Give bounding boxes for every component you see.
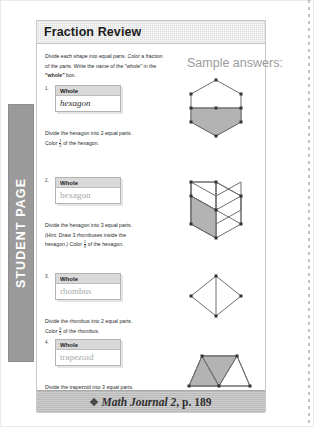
worksheet: Fraction Review Divide each shape into e… — [36, 20, 266, 412]
worksheet-title-bar: Fraction Review — [37, 21, 265, 44]
worksheet-body: Divide each shape into equal parts. Colo… — [37, 44, 265, 413]
problem-2-text: Divide the hexagon into 3 equal parts. (… — [45, 221, 177, 250]
problem-4-number: 4. — [45, 340, 49, 345]
whole-box-3-value[interactable]: rhombus — [56, 284, 120, 299]
whole-box-4-header: Whole — [56, 340, 120, 350]
student-page-tab-label: STUDENT PAGE — [14, 178, 28, 288]
problem-1-line1: Divide the hexagon into 2 equal parts. — [45, 130, 132, 136]
whole-box-2-header: Whole — [56, 178, 120, 188]
whole-box-1[interactable]: Whole hexagon — [55, 85, 121, 112]
whole-box-2[interactable]: Whole hexagon — [55, 177, 121, 204]
problem-1-line2-pre: Color — [45, 140, 59, 146]
problem-3-line1: Divide the rhombus into 2 equal parts. — [45, 318, 132, 324]
footer-citation: Math Journal 2, p. 189 — [102, 396, 212, 408]
whole-box-4-value[interactable]: trapezoid — [56, 350, 120, 365]
instructions-part2: in the — [142, 63, 156, 69]
problem-2-line3-pre: hexagon.) Color — [45, 241, 83, 247]
problem-1-text: Divide the hexagon into 2 equal parts. C… — [45, 129, 177, 148]
whole-box-4[interactable]: Whole trapezoid — [55, 339, 121, 366]
student-page-tab: STUDENT PAGE — [8, 104, 34, 362]
instructions-bold: "whole" — [45, 72, 65, 78]
problem-3-line2-post: of the rhombus. — [62, 328, 100, 334]
instructions-part3: box. — [65, 72, 76, 78]
whole-box-3[interactable]: Whole rhombus — [55, 273, 121, 300]
whole-box-3-header: Whole — [56, 274, 120, 284]
problem-2-number: 2. — [45, 178, 49, 183]
diamond-bullet-icon — [89, 398, 97, 406]
answer-shape-2-hexagon-rhombuses — [171, 172, 261, 254]
sample-answers-label: Sample answers: — [187, 56, 283, 70]
problem-2-line3-post: of the hexagon. — [86, 241, 123, 247]
problem-3-line2-pre: Color — [45, 328, 59, 334]
problem-2-line2: (Hint: Draw 3 rhombuses inside the — [45, 232, 126, 238]
answer-shape-1-hexagon — [171, 76, 261, 158]
problem-3-text: Divide the rhombus into 2 equal parts. C… — [45, 317, 177, 336]
instructions-quote1: "whole" — [125, 63, 142, 69]
scanned-book-page: STUDENT PAGE Fraction Review Divide each… — [0, 0, 314, 427]
whole-box-2-value[interactable]: hexagon — [56, 188, 120, 203]
worksheet-footer: Math Journal 2, p. 189 — [37, 390, 265, 413]
perforation-dotted-line — [308, 0, 310, 427]
whole-box-1-value[interactable]: hexagon — [56, 96, 120, 111]
problem-3-number: 3. — [45, 274, 49, 279]
footer-journal-title: Math Journal 2 — [102, 396, 177, 408]
instructions-text: Divide each shape into equal parts. Colo… — [45, 52, 167, 81]
problem-1-line2-post: of the hexagon. — [62, 140, 99, 146]
problem-2-line1: Divide the hexagon into 3 equal parts. — [45, 222, 132, 228]
page-title: Fraction Review — [44, 25, 141, 39]
answer-shape-3-rhombus — [171, 270, 261, 334]
problem-1-number: 1. — [45, 86, 49, 91]
footer-page-ref: , p. 189 — [176, 396, 211, 408]
whole-box-1-header: Whole — [56, 86, 120, 96]
